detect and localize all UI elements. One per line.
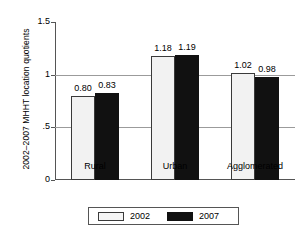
bar-value-label: 0.83 <box>91 80 123 90</box>
dark-swatch-icon <box>167 212 193 221</box>
y-tick: 0 <box>55 180 295 181</box>
legend-item-2007: 2007 <box>167 211 229 221</box>
y-tick: 1.5 <box>55 22 295 23</box>
y-tick-label: 1.5 <box>25 16 50 26</box>
y-tick-label: 0 <box>25 174 50 184</box>
plot-area: 0.511.5 0.800.831.181.191.020.98 <box>55 22 295 180</box>
y-axis-title: 2002–2007 MHHT location quotients <box>21 11 31 187</box>
y-tick-label: .5 <box>25 121 50 131</box>
legend-label-2002: 2002 <box>130 211 150 221</box>
bar-value-label: 0.98 <box>251 64 283 74</box>
y-axis-line <box>55 22 56 180</box>
y-tick-mark <box>51 180 55 181</box>
chart-legend: 2002 2007 <box>88 207 239 225</box>
y-tick-label: 1 <box>25 69 50 79</box>
legend-label-2007: 2007 <box>199 211 219 221</box>
category-label-agglomerated: Agglomerated <box>205 161 302 171</box>
bar-chart-figure: 2002–2007 MHHT location quotients 0.511.… <box>0 0 302 232</box>
y-tick-mark <box>51 22 55 23</box>
light-swatch-icon <box>98 212 124 221</box>
bar-value-label: 1.19 <box>171 42 203 52</box>
legend-item-2002: 2002 <box>98 211 160 221</box>
